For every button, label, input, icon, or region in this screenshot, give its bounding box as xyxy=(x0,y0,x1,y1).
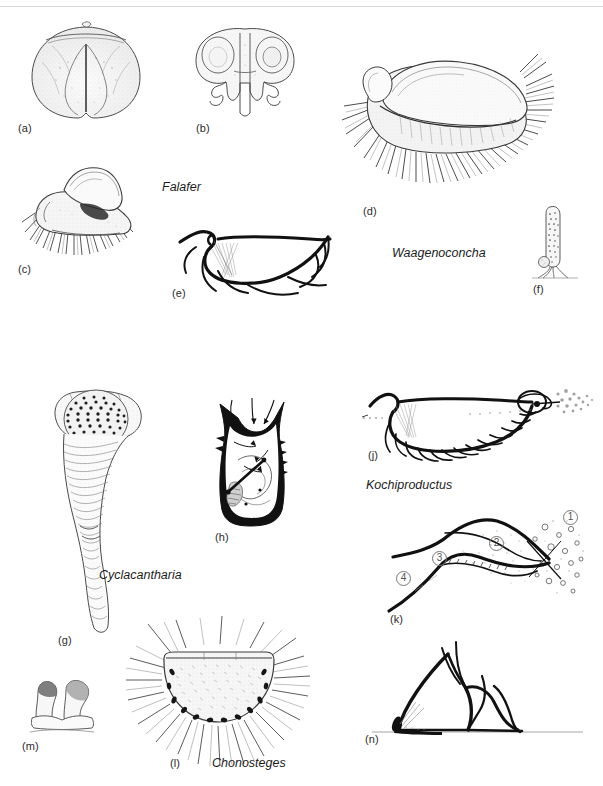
panel-m-illustration xyxy=(28,676,98,738)
panel-label-g: (g) xyxy=(58,634,72,646)
panel-e-illustration xyxy=(178,215,338,300)
panel-b-illustration xyxy=(190,25,300,120)
callout-number-1: 1 xyxy=(563,510,578,525)
taxon-label-waagenoconcha: Waagenoconcha xyxy=(392,246,486,260)
panel-label-m: (m) xyxy=(22,740,39,752)
taxon-label-cyclacantharia: Cyclacantharia xyxy=(99,568,182,582)
panel-label-h: (h) xyxy=(215,531,229,543)
panel-label-d: (d) xyxy=(363,205,377,217)
panel-j-illustration xyxy=(360,382,600,462)
panel-f-illustration xyxy=(530,205,580,285)
panel-label-a: (a) xyxy=(18,122,32,134)
taxon-label-kochiproductus: Kochiproductus xyxy=(366,478,452,492)
panel-l-illustration xyxy=(124,624,314,769)
callout-number-3: 3 xyxy=(432,551,447,566)
top-rule xyxy=(0,6,603,7)
panel-n-illustration xyxy=(370,640,585,745)
panel-label-j: (j) xyxy=(368,449,378,461)
panel-g-illustration xyxy=(40,386,160,636)
panel-label-f: (f) xyxy=(533,283,544,295)
figure-plate: (a) (b) (c) (d) (e) (f) (g) (h) (j) (k) … xyxy=(0,0,603,786)
panel-label-e: (e) xyxy=(172,287,186,299)
panel-c-illustration xyxy=(20,162,150,262)
panel-label-l: (l) xyxy=(170,757,180,769)
taxon-label-chonosteges: Chonosteges xyxy=(212,756,286,770)
panel-h-illustration xyxy=(198,398,308,533)
panel-label-b: (b) xyxy=(196,122,210,134)
panel-d-illustration xyxy=(340,48,580,213)
panel-a-illustration xyxy=(26,22,146,122)
callout-number-2: 2 xyxy=(489,536,504,551)
callout-number-4: 4 xyxy=(396,571,411,586)
panel-label-c: (c) xyxy=(18,263,31,275)
taxon-label-falafer: Falafer xyxy=(162,180,201,194)
panel-label-k: (k) xyxy=(390,613,403,625)
panel-label-n: (n) xyxy=(365,733,379,745)
